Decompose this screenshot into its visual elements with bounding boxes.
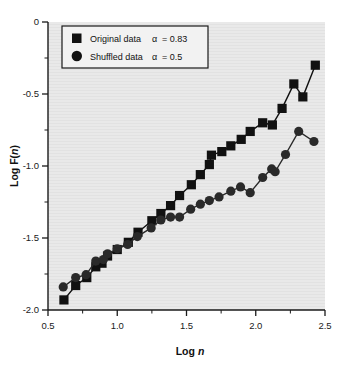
- y-axis-title: Log F(n): [8, 145, 20, 187]
- circle-marker: [71, 273, 80, 282]
- circle-marker: [103, 249, 112, 258]
- circle-marker: [294, 127, 303, 136]
- circle-marker: [186, 205, 195, 214]
- square-marker: [217, 147, 226, 156]
- square-marker: [246, 127, 255, 136]
- square-marker: [268, 120, 277, 129]
- circle-marker: [91, 256, 100, 265]
- square-marker: [175, 191, 184, 200]
- square-marker: [187, 180, 196, 189]
- circle-marker: [226, 187, 235, 196]
- x-axis-title: Log n: [176, 345, 205, 357]
- square-marker: [59, 295, 68, 304]
- square-marker: [237, 135, 246, 144]
- legend-square-marker: [72, 34, 82, 44]
- y-tick-label: -2.0: [23, 304, 39, 315]
- square-marker: [196, 170, 205, 179]
- x-tick-label: 1.0: [111, 320, 124, 331]
- y-axis-title-prefix: Log F(: [8, 154, 20, 187]
- circle-marker: [205, 196, 214, 205]
- circle-marker: [214, 192, 223, 201]
- circle-marker: [59, 282, 68, 291]
- circle-marker: [147, 223, 156, 232]
- y-tick-label: -1.5: [23, 232, 39, 243]
- legend-alpha-value-shuffled: = 0.5: [162, 52, 182, 62]
- circle-marker: [175, 213, 184, 222]
- chart-legend: Original data α = 0.83 Shuffled data α =…: [62, 26, 208, 68]
- x-axis-title-prefix: Log: [176, 345, 198, 357]
- square-marker: [205, 160, 214, 169]
- circle-marker: [271, 167, 280, 176]
- y-tick-label: -0.5: [23, 88, 39, 99]
- circle-marker: [81, 270, 90, 279]
- legend-label-original: Original data: [90, 34, 141, 44]
- square-marker: [226, 141, 235, 150]
- circle-marker: [236, 182, 245, 191]
- square-marker: [298, 92, 307, 101]
- y-tick-label: 0: [34, 16, 39, 27]
- circle-marker: [113, 244, 122, 253]
- circle-marker: [281, 150, 290, 159]
- circle-marker: [196, 200, 205, 209]
- x-tick-label: 1.5: [180, 320, 193, 331]
- y-tick-label: -1.0: [23, 160, 39, 171]
- x-tick-label: 0.5: [41, 320, 54, 331]
- circle-marker: [133, 232, 142, 241]
- legend-box: [62, 26, 208, 68]
- square-marker: [166, 201, 175, 210]
- circle-marker: [246, 188, 255, 197]
- x-tick-label: 2.0: [249, 320, 262, 331]
- square-marker: [258, 118, 267, 127]
- x-axis-title-italic: n: [198, 345, 204, 357]
- legend-label-shuffled: Shuffled data: [90, 52, 143, 62]
- square-marker: [289, 79, 298, 88]
- square-marker: [207, 151, 216, 160]
- circle-marker: [166, 213, 175, 222]
- y-axis-title-suffix: ): [8, 145, 20, 149]
- square-marker: [71, 281, 80, 290]
- legend-alpha-symbol-shuffled: α: [152, 52, 157, 62]
- circle-marker: [123, 240, 132, 249]
- x-tick-label: 2.5: [318, 320, 331, 331]
- square-marker: [277, 104, 286, 113]
- legend-alpha-symbol-original: α: [152, 34, 157, 44]
- circle-marker: [258, 173, 267, 182]
- square-marker: [311, 61, 320, 70]
- chart-canvas: 0.51.01.52.02.5 0-0.5-1.0-1.5-2.0 Log n …: [0, 0, 345, 370]
- legend-alpha-value-original: = 0.83: [162, 34, 187, 44]
- circle-marker: [309, 137, 318, 146]
- legend-circle-marker: [72, 51, 82, 61]
- circle-marker: [156, 215, 165, 224]
